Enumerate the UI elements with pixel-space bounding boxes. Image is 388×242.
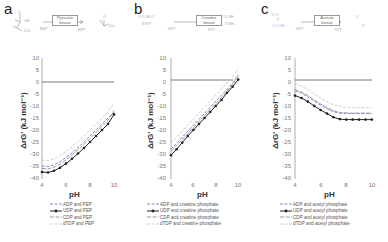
panel-a: a O OH CO₂ O CO₂ NDP NTP Pyruvate kinase… — [0, 0, 130, 242]
legend-item: CDP and PEP — [50, 214, 94, 221]
legend-item: dTDP and PEP — [50, 221, 94, 228]
xtick: 6 — [186, 182, 200, 188]
legend-item: UDP and acetyl phosphate — [280, 208, 350, 215]
xtick: 8 — [339, 182, 353, 188]
legend-b: ADP and creatine phosphate UDP and creat… — [147, 201, 221, 227]
x-axis-label: pH — [69, 190, 80, 199]
xtick: 4 — [164, 182, 178, 188]
series-cdp — [171, 76, 238, 152]
legend-a: ADP and PEP UDP and PEP CDP and PEP dTDP… — [50, 201, 94, 227]
legend-c: ADP and acetyl phosphate UDP and acetyl … — [280, 201, 350, 227]
xtick: 10 — [107, 182, 121, 188]
legend-item: dTDP and creatine phosphate — [147, 221, 221, 228]
series-adp — [171, 75, 238, 149]
chart-c — [258, 0, 388, 200]
panel-b: b CO₂ NH O N N P NDP NTP CO₂ NH N NH₂ Cr… — [128, 0, 258, 242]
xtick: 8 — [83, 182, 97, 188]
legend-item: CDP and acetyl phosphate — [280, 214, 350, 221]
x-axis-label: pH — [324, 190, 335, 199]
xtick: 10 — [231, 182, 245, 188]
legend-item: CDP and creatine phosphate — [147, 214, 221, 221]
xtick: 4 — [35, 182, 49, 188]
legend-item: UDP and PEP — [50, 208, 94, 215]
legend-item: UDP and creatine phosphate — [147, 208, 221, 215]
series-adp — [295, 91, 372, 114]
legend-item: ADP and creatine phosphate — [147, 201, 221, 208]
legend-item: ADP and PEP — [50, 201, 94, 208]
series-cdp — [42, 111, 114, 169]
legend-item: ADP and acetyl phosphate — [280, 201, 350, 208]
series-dtdp — [42, 104, 114, 161]
panel-c: c O O P O O OH NDP NTP O O Acetate kinas… — [258, 0, 388, 242]
xtick: 4 — [288, 182, 302, 188]
series-dtdp — [295, 84, 372, 108]
x-axis-label: pH — [197, 190, 208, 199]
xtick: 6 — [59, 182, 73, 188]
chart-a — [0, 0, 130, 200]
xtick: 10 — [365, 182, 379, 188]
xtick: 6 — [314, 182, 328, 188]
xtick: 8 — [209, 182, 223, 188]
legend-item: dTDP and acetyl phosphate — [280, 221, 350, 228]
series-adp — [42, 112, 114, 167]
chart-b — [128, 0, 258, 200]
